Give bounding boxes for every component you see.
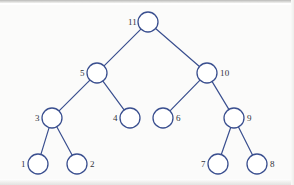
tree-node-4 — [120, 108, 140, 128]
tree-node-label-5: 5 — [80, 68, 85, 78]
tree-edge-10-6 — [170, 80, 200, 111]
tree-node-label-6: 6 — [176, 113, 181, 123]
tree-node-7 — [208, 154, 228, 174]
tree-node-8 — [247, 154, 267, 174]
tree-node-label-3: 3 — [35, 113, 40, 123]
tree-node-6 — [153, 108, 173, 128]
tree-edge-9-8 — [238, 127, 252, 155]
tree-edge-9-7 — [221, 127, 230, 154]
tree-diagram-page: 1151034691278 — [0, 0, 294, 185]
tree-node-label-2: 2 — [90, 159, 95, 169]
tree-node-label-11: 11 — [128, 17, 137, 27]
tree-edge-5-4 — [103, 81, 124, 110]
tree-edge-11-5 — [104, 29, 141, 66]
tree-edge-5-3 — [59, 80, 90, 111]
tree-node-label-8: 8 — [270, 159, 275, 169]
tree-node-1 — [28, 154, 48, 174]
tree-edge-3-2 — [57, 127, 72, 155]
tree-node-label-7: 7 — [201, 159, 206, 169]
tree-node-10 — [197, 63, 217, 83]
tree-node-label-9: 9 — [247, 113, 252, 123]
tree-node-layer — [28, 12, 267, 174]
tree-node-label-10: 10 — [220, 68, 229, 78]
tree-edge-layer — [41, 29, 253, 156]
tree-edge-3-1 — [41, 128, 49, 155]
tree-edge-10-9 — [212, 82, 229, 110]
tree-node-9 — [224, 108, 244, 128]
tree-node-11 — [138, 12, 158, 32]
tree-edge-11-10 — [156, 29, 200, 67]
tree-node-label-1: 1 — [21, 159, 26, 169]
binary-tree-graphic — [0, 0, 294, 185]
tree-node-5 — [87, 63, 107, 83]
tree-node-label-4: 4 — [113, 113, 118, 123]
tree-node-3 — [42, 108, 62, 128]
tree-node-2 — [67, 154, 87, 174]
